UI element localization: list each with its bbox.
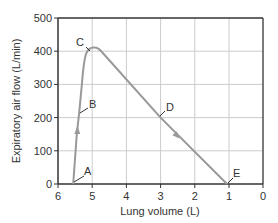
flow-volume-curve <box>73 47 227 184</box>
point-label-e: E <box>233 167 240 179</box>
y-axis-title: Expiratory air flow (L/min) <box>10 39 22 164</box>
y-tick-300: 300 <box>34 78 52 90</box>
annotation-leaders <box>74 47 233 183</box>
arrow-up-icon <box>74 126 80 134</box>
point-label-c: C <box>76 36 84 48</box>
point-label-d: D <box>166 101 174 113</box>
y-tick-0: 0 <box>46 178 52 190</box>
point-label-b: B <box>89 98 96 110</box>
x-tick-labels: 6 5 4 3 2 1 0 <box>55 190 266 202</box>
x-tick-0: 0 <box>260 190 266 202</box>
point-label-a: A <box>84 165 92 177</box>
point-labels: A B C D E <box>76 36 240 179</box>
x-tick-3: 3 <box>158 190 164 202</box>
x-tick-5: 5 <box>89 190 95 202</box>
x-tick-2: 2 <box>192 190 198 202</box>
x-tick-6: 6 <box>55 190 61 202</box>
y-tick-500: 500 <box>34 12 52 24</box>
axis-ticks <box>54 18 263 188</box>
x-tick-4: 4 <box>123 190 129 202</box>
y-tick-labels: 500 400 300 200 100 0 <box>34 12 52 190</box>
y-tick-100: 100 <box>34 145 52 157</box>
x-axis-title: Lung volume (L) <box>120 205 200 217</box>
y-tick-400: 400 <box>34 45 52 57</box>
x-tick-1: 1 <box>226 190 232 202</box>
flow-volume-chart: 500 400 300 200 100 0 6 5 4 3 2 1 0 Lung… <box>0 0 278 223</box>
y-tick-200: 200 <box>34 112 52 124</box>
